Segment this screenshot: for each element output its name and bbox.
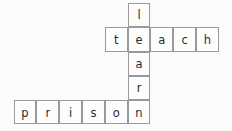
cell-letter: l bbox=[137, 10, 140, 22]
cell-letter: r bbox=[45, 107, 50, 119]
cell-letter: c bbox=[181, 34, 187, 46]
crossword-cell: e bbox=[128, 27, 151, 51]
cell-letter: a bbox=[135, 58, 142, 70]
crossword-cell: l bbox=[128, 3, 151, 27]
cell-letter: a bbox=[158, 34, 165, 46]
crossword-cell: s bbox=[82, 100, 105, 124]
crossword-cell: p bbox=[14, 100, 37, 124]
crossword-cell: i bbox=[59, 100, 82, 124]
crossword-cell: h bbox=[196, 27, 219, 51]
crossword-cell: r bbox=[128, 76, 151, 100]
crossword-cell: c bbox=[173, 27, 196, 51]
cell-letter: h bbox=[204, 34, 211, 46]
crossword-cell: n bbox=[128, 100, 151, 124]
cell-letter: n bbox=[135, 107, 142, 119]
crossword-cell: a bbox=[128, 52, 151, 76]
cell-letter: s bbox=[90, 107, 96, 119]
crossword-cell: o bbox=[105, 100, 128, 124]
cell-letter: o bbox=[113, 107, 120, 119]
crossword-board: lteacharprison bbox=[0, 0, 232, 131]
cell-letter: i bbox=[69, 107, 72, 119]
cell-letter: r bbox=[137, 83, 142, 95]
cell-letter: t bbox=[114, 34, 119, 46]
crossword-cell: t bbox=[105, 27, 128, 51]
crossword-cell: r bbox=[36, 100, 59, 124]
cell-letter: p bbox=[21, 107, 28, 119]
cell-letter: e bbox=[135, 34, 142, 46]
crossword-cell: a bbox=[150, 27, 173, 51]
